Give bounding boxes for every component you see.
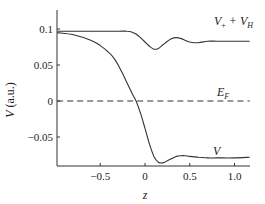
- label-vplus-vh: V+ + VH: [214, 14, 254, 30]
- y-tick-label: 0.1: [39, 23, 53, 35]
- x-tick-label: −0.5: [90, 170, 110, 182]
- label-v: V: [213, 144, 222, 158]
- label-fermi: EF: [216, 85, 229, 101]
- x-tick-label: 0: [142, 170, 148, 182]
- labels: V+ + VHEFV: [213, 14, 254, 158]
- chart: 0.10.050−0.05−0.500.51.0zV (a.u.) V+ + V…: [0, 0, 265, 204]
- y-tick-label: −0.05: [28, 131, 54, 143]
- y-axis-title: V (a.u.): [3, 82, 17, 118]
- vplus-vh-curve: [57, 31, 249, 49]
- y-tick-label: 0: [48, 95, 54, 107]
- x-tick-label: 0.5: [183, 170, 197, 182]
- x-tick-label: 1.0: [228, 170, 242, 182]
- y-tick-label: 0.05: [34, 59, 54, 71]
- x-axis-title: z: [142, 188, 148, 202]
- axes: 0.10.050−0.05−0.500.51.0zV (a.u.): [3, 10, 250, 202]
